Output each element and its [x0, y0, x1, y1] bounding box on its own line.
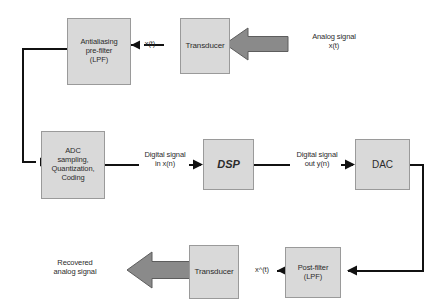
label-analog-input-signal: Analog signal x(t)	[291, 32, 377, 50]
box-transducer-input[interactable]: Transducer	[180, 18, 230, 74]
box-adc[interactable]: ADC sampling, Quantization, Coding	[41, 131, 105, 199]
dsp-block-diagram: Antialiasing pre-filter (LPF) Transducer…	[0, 0, 436, 308]
box-transducer-output-label: Transducer	[192, 267, 235, 276]
label-digital-signal-out: Digital signal out y(n)	[285, 150, 349, 168]
box-dsp-label: DSP	[215, 158, 241, 171]
block-arrow-analog-input	[225, 28, 288, 60]
box-post-filter[interactable]: Post-filter (LPF)	[285, 247, 341, 298]
box-transducer-input-label: Transducer	[183, 41, 226, 50]
label-x-hat-t: x^(t)	[244, 265, 280, 274]
box-dac[interactable]: DAC	[355, 139, 410, 190]
box-transducer-output[interactable]: Transducer	[189, 245, 239, 299]
label-xt: x(t)	[135, 39, 165, 48]
connector-antialiasing-down	[22, 48, 24, 163]
box-adc-label: ADC sampling, Quantization, Coding	[50, 147, 97, 182]
box-antialiasing-prefilter[interactable]: Antialiasing pre-filter (LPF)	[67, 18, 131, 85]
label-digital-signal-in: Digital signal in x(n)	[134, 150, 196, 168]
connector-antialiasing-exit-left	[22, 48, 68, 50]
box-dsp[interactable]: DSP	[203, 139, 254, 190]
label-recovered-analog-signal: Recovered analog signal	[31, 258, 119, 276]
block-arrow-recovered-output	[127, 252, 194, 288]
box-dac-label: DAC	[370, 159, 395, 171]
connector-down-to-adc	[22, 161, 36, 163]
box-antialiasing-prefilter-label: Antialiasing pre-filter (LPF)	[78, 38, 119, 65]
box-post-filter-label: Post-filter (LPF)	[296, 264, 331, 282]
connector-dac-down	[422, 164, 424, 272]
connector-down-to-postfilter	[348, 270, 424, 272]
